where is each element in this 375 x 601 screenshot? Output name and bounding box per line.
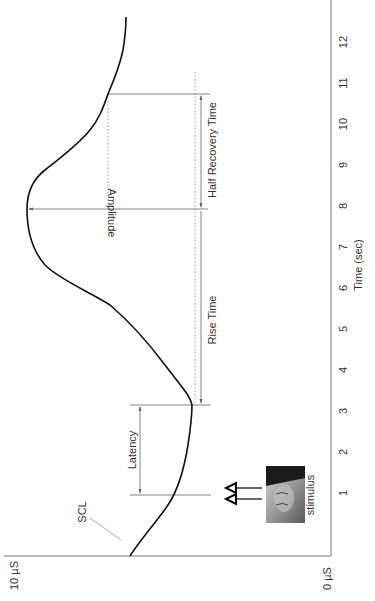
rise-time-arrow-head	[200, 399, 203, 404]
latency-arrow-head-bottom	[139, 489, 142, 494]
scr-chart: 123456789101112 Time (sec) 10 µS 0 µS La…	[0, 0, 375, 601]
latency-label: Latency	[126, 430, 138, 469]
amplitude-label: Amplitude	[106, 189, 118, 238]
time-tick-label: 8	[337, 203, 349, 209]
time-tick-label: 10	[337, 118, 349, 130]
stimulus-label: stimulus	[304, 474, 316, 515]
time-axis-label: Time (sec)	[352, 239, 364, 291]
time-tick-label: 3	[337, 408, 349, 414]
rise-time-label: Rise Time	[206, 296, 218, 345]
stimulus-arrowhead-1	[226, 483, 236, 493]
stimulus-arrowhead-2	[226, 494, 236, 504]
time-tick-label: 12	[337, 36, 349, 48]
time-tick-label: 9	[337, 162, 349, 168]
amplitude-arrow-head	[28, 208, 33, 211]
latency-arrow-head-top	[139, 406, 142, 411]
scr-curve	[27, 17, 192, 556]
y-max-label: 10 µS	[8, 561, 20, 590]
scl-pointer	[90, 518, 121, 540]
half-recovery-arrow-head-top	[200, 95, 203, 100]
half-recovery-arrow-head-bottom	[200, 203, 203, 208]
half-recovery-label: Half Recovery Time	[206, 102, 218, 198]
scl-label: SCL	[76, 501, 88, 522]
time-tick-label: 5	[337, 326, 349, 332]
time-tick-label: 4	[337, 367, 349, 373]
time-ticks: 123456789101112	[337, 36, 349, 496]
stimulus-image	[266, 466, 305, 523]
time-tick-label: 1	[337, 490, 349, 496]
time-tick-label: 11	[337, 77, 349, 88]
time-tick-label: 2	[337, 449, 349, 455]
y-min-label: 0 µS	[321, 567, 333, 590]
time-tick-label: 7	[337, 244, 349, 250]
time-tick-label: 6	[337, 285, 349, 291]
